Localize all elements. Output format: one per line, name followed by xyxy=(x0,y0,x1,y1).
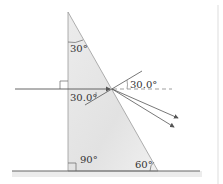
normal-angle-arc xyxy=(127,80,128,89)
right-angle-label: 90° xyxy=(80,154,98,165)
prism-diagram: 30° 30.0° 30.0° 90° 60° xyxy=(0,0,223,184)
incident-angle-label: 30.0° xyxy=(70,92,97,103)
ground-shadow xyxy=(12,171,202,177)
apex-angle-label: 30° xyxy=(70,43,88,54)
entry-right-angle-marker xyxy=(60,81,68,89)
base-angle-label: 60° xyxy=(135,159,153,170)
normal-angle-label: 30.0° xyxy=(130,79,157,90)
